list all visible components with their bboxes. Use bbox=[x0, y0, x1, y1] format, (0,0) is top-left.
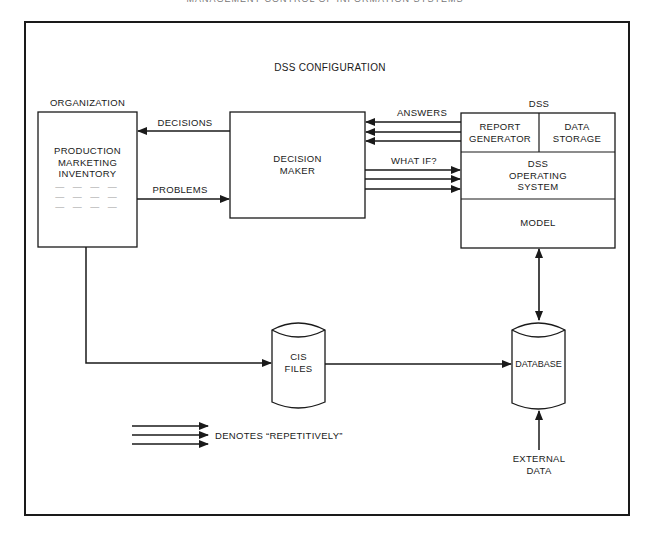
data-storage-line2: STORAGE bbox=[539, 133, 615, 145]
org-placeholder-row: — — — — bbox=[38, 202, 137, 212]
cis-files-line2: FILES bbox=[272, 363, 325, 375]
model-label: MODEL bbox=[461, 217, 615, 229]
data-storage-line1: DATA bbox=[539, 121, 615, 133]
external-data-line2: DATA bbox=[509, 465, 569, 477]
cis-files-label: CIS FILES bbox=[272, 351, 325, 374]
org-line-marketing: MARKETING bbox=[38, 157, 137, 169]
data-storage-label: DATA STORAGE bbox=[539, 121, 615, 144]
problems-label: PROBLEMS bbox=[145, 184, 215, 196]
dss-os-line3: SYSTEM bbox=[461, 181, 615, 193]
org-line-production: PRODUCTION bbox=[38, 145, 137, 157]
legend-text: DENOTES “REPETITIVELY” bbox=[215, 430, 343, 442]
legend-arrows bbox=[132, 426, 208, 444]
what-if-label: WHAT IF? bbox=[384, 155, 444, 167]
report-generator-line2: GENERATOR bbox=[461, 133, 539, 145]
org-placeholder-row: — — — — bbox=[38, 192, 137, 202]
external-data-label: EXTERNAL DATA bbox=[509, 453, 569, 476]
decisions-label: DECISIONS bbox=[150, 117, 220, 129]
external-data-line1: EXTERNAL bbox=[509, 453, 569, 465]
diagram-title: DSS CONFIGURATION bbox=[260, 62, 400, 74]
database-label: DATABASE bbox=[510, 359, 567, 371]
dss-os-line2: OPERATING bbox=[461, 170, 615, 182]
decision-maker-line2: MAKER bbox=[230, 165, 365, 177]
report-generator-line1: REPORT bbox=[461, 121, 539, 133]
org-placeholder-row: — — — — bbox=[38, 182, 137, 192]
dss-operating-system-label: DSS OPERATING SYSTEM bbox=[461, 158, 615, 193]
dss-heading: DSS bbox=[500, 98, 578, 110]
what-if-arrows bbox=[365, 170, 460, 189]
decision-maker-label: DECISION MAKER bbox=[230, 153, 365, 176]
report-generator-label: REPORT GENERATOR bbox=[461, 121, 539, 144]
org-to-cis-arrow bbox=[86, 247, 271, 363]
answers-label: ANSWERS bbox=[392, 107, 452, 119]
organization-functions: PRODUCTION MARKETING INVENTORY — — — — —… bbox=[38, 145, 137, 212]
answers-arrows bbox=[366, 122, 461, 141]
dss-os-line1: DSS bbox=[461, 158, 615, 170]
organization-heading: ORGANIZATION bbox=[38, 97, 137, 109]
cis-files-line1: CIS bbox=[272, 351, 325, 363]
decision-maker-line1: DECISION bbox=[230, 153, 365, 165]
org-line-inventory: INVENTORY bbox=[38, 168, 137, 180]
